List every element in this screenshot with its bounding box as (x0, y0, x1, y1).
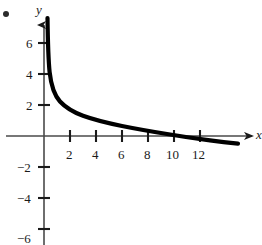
x-tick-label: 2 (66, 148, 73, 161)
problem-number-bullet (3, 11, 9, 17)
x-tick-label: 12 (192, 148, 205, 161)
x-tick-label: 10 (166, 148, 179, 161)
curve-path (48, 18, 239, 144)
y-tick-label: 4 (26, 68, 33, 81)
y-tick-label: −6 (17, 232, 31, 245)
y-axis-label: y (36, 3, 42, 16)
y-tick-label: 2 (26, 99, 33, 112)
x-tick-label: 4 (92, 148, 99, 161)
cartesian-plot (0, 0, 262, 245)
x-tick-label: 6 (118, 148, 125, 161)
x-axis-label: x (256, 128, 262, 141)
x-tick-label: 8 (144, 148, 151, 161)
y-tick-label: 6 (26, 37, 33, 50)
y-tick-label: −4 (17, 192, 31, 205)
y-tick-label: −2 (17, 161, 31, 174)
graph-figure: y x 2 4 6 8 10 12 6 4 2 −2 −4 −6 (0, 0, 262, 245)
